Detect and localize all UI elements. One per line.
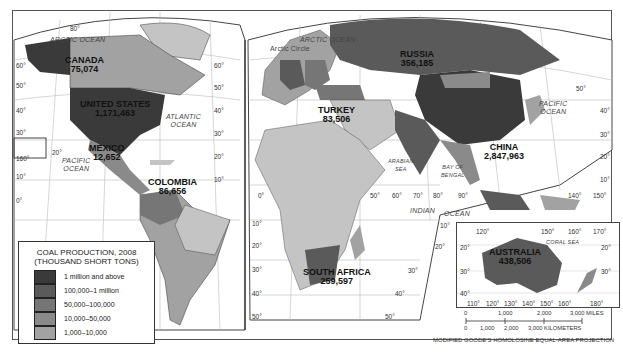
country-label-australia: AUSTRALIA438,506 (489, 248, 541, 266)
lat-tick: 40° (214, 107, 224, 114)
legend-item: 1 million and above (34, 270, 152, 284)
inset-lon-tick: 160° (558, 300, 571, 307)
lat-tick: 80° (70, 25, 80, 32)
legend-label: 50,000–100,000 (64, 301, 115, 308)
lon-tick: 70° (413, 192, 423, 199)
legend-swatch (34, 284, 56, 298)
country-label-russia: RUSSIA356,185 (400, 50, 434, 68)
country-label-china: CHINA2,847,963 (484, 143, 524, 161)
lon-tick: 150° (593, 192, 606, 199)
legend-label: 1,000–10,000 (64, 329, 107, 336)
inset-lon-tick: 170° (593, 228, 606, 235)
inset-lat-tick: 30° (460, 268, 470, 275)
lat-tick: 40° (252, 290, 262, 297)
inset-lon-tick: 110° (467, 300, 480, 307)
legend-item: 100,000–1 million (34, 284, 152, 298)
lat-tick: 30° (600, 131, 610, 138)
country-label-mexico: MEXICO12,652 (89, 144, 125, 162)
ocean-label-arctic-east: ARCTIC OCEAN (300, 36, 355, 44)
scale-label: 1,000 (480, 325, 495, 331)
lat-tick: 40° (16, 107, 26, 114)
country-label-united-states: UNITED STATES1,171,463 (80, 100, 150, 118)
ocean-label-arctic-west: ARCTIC OCEAN (50, 36, 105, 44)
lon-tick: 60° (392, 192, 402, 199)
inset-lat-tick: 20° (460, 244, 470, 251)
legend-label: 1 million and above (64, 273, 124, 280)
legend-item (33, 338, 153, 352)
country-label-turkey: TURKEY83,506 (318, 106, 355, 124)
lat-tick: 10° (16, 173, 26, 180)
lat-tick: 20° (214, 153, 224, 160)
lat-tick: 50° (385, 313, 395, 320)
legend-swatch (34, 270, 56, 284)
scale-label: 2,000 (537, 310, 552, 316)
lon-tick: 80° (433, 192, 443, 199)
projection-label: MODIFIED GOODE'S HOMOLOSINE EQUAL-AREA P… (433, 337, 614, 343)
lat-tick: 30° (252, 266, 262, 273)
scale-label: 3,000 MILES (570, 310, 604, 316)
lat-tick: 20° (52, 149, 62, 156)
scale-label: 0 (464, 310, 467, 316)
country-label-canada: CANADA75,074 (65, 56, 104, 74)
lat-tick: 40° (395, 290, 405, 297)
lat-tick: 50° (252, 313, 262, 320)
lon-tick: 0° (258, 192, 264, 199)
ocean-label-pacific-west: PACIFICOCEAN (62, 157, 91, 173)
lat-tick: 10° (600, 176, 610, 183)
inset-lon-tick: 180° (590, 300, 603, 307)
inset-lat-tick: 20° (601, 244, 611, 251)
inset-lon-tick: 120° (476, 228, 489, 235)
lon-tick: 90° (458, 192, 468, 199)
arctic-circle-label: Arctic Circle (270, 45, 310, 53)
lat-tick: 30° (214, 130, 224, 137)
country-label-colombia: COLOMBIA86,656 (148, 178, 197, 196)
lat-tick: 50° (16, 82, 26, 89)
legend-label: 100,000–1 million (64, 287, 119, 294)
lat-tick: 60° (214, 62, 224, 69)
lon-tick: 50° (370, 192, 380, 199)
lat-tick: 10° (440, 222, 450, 229)
inset-lon-tick: 120° (486, 300, 499, 307)
lat-tick: 70° (38, 42, 48, 49)
inset-lat-tick: 30° (601, 268, 611, 275)
bay-label-bengal: BAY OFBENGAL (441, 163, 465, 179)
legend: COAL PRODUCTION, 2008 (THOUSAND SHORT TO… (18, 241, 155, 344)
lon-tick: 140° (568, 192, 581, 199)
scale-label: 1,000 (498, 310, 513, 316)
lat-tick: 10° (252, 220, 262, 227)
ocean-label-indian-2: OCEAN (444, 210, 470, 218)
ocean-label-pacific-east: PACIFICOCEAN (539, 100, 568, 116)
legend-item: 10,000–50,000 (34, 312, 152, 326)
lat-tick: 50° (576, 85, 586, 92)
sea-label-coral: CORAL SEA (546, 238, 579, 246)
lat-tick: 30° (408, 267, 418, 274)
inset-lon-tick: 150° (541, 228, 554, 235)
inset-lon-tick: 140° (522, 300, 535, 307)
scale-label: 3,000 KILOMETERS (528, 325, 581, 331)
lat-tick: 60° (16, 62, 26, 69)
lat-tick: 30° (16, 129, 26, 136)
scale-label: 0 (464, 325, 467, 331)
ocean-label-indian: INDIAN (410, 207, 435, 215)
lat-tick: 20° (435, 243, 445, 250)
lon-tick: 160° (16, 155, 29, 162)
inset-lon-tick: 130° (504, 300, 517, 307)
sea-label-arabian: ARABIANSEA (388, 157, 414, 173)
lat-tick: 20° (252, 242, 262, 249)
lat-tick: 0° (16, 197, 22, 204)
lat-tick: 50° (214, 84, 224, 91)
scale-label: 2,000 (504, 325, 519, 331)
legend-title: COAL PRODUCTION, 2008 (THOUSAND SHORT TO… (19, 248, 154, 266)
ocean-label-atlantic: ATLANTICOCEAN (166, 113, 201, 129)
inset-lat-tick: 40° (460, 290, 470, 297)
inset-lon-tick: 150° (540, 300, 553, 307)
legend-label: 10,000–50,000 (64, 315, 111, 322)
country-label-south-africa: SOUTH AFRICA259,597 (303, 268, 371, 286)
inset-lon-tick: 160° (568, 228, 581, 235)
lat-tick: 40° (600, 107, 610, 114)
legend-item: 50,000–100,000 (34, 298, 152, 312)
lat-tick: 10° (214, 176, 224, 183)
lat-tick: 20° (600, 153, 610, 160)
legend-swatch (34, 298, 56, 312)
legend-swatch (34, 312, 56, 326)
